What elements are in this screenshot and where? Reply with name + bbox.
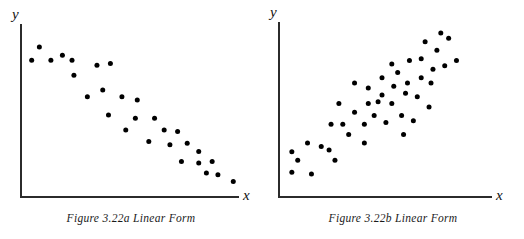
data-point (119, 94, 124, 99)
data-point (185, 141, 190, 146)
data-point (434, 48, 439, 53)
data-point (395, 70, 400, 75)
data-point (175, 129, 180, 134)
data-point (383, 120, 388, 125)
data-point (427, 105, 432, 110)
data-point (204, 171, 209, 176)
data-point (389, 101, 394, 106)
data-point (295, 158, 300, 163)
data-point (442, 63, 447, 68)
data-points-group-a (29, 44, 236, 183)
y-axis-label-a: y (12, 7, 19, 22)
data-point (309, 172, 314, 177)
data-point (366, 86, 371, 91)
data-point (37, 44, 42, 49)
data-point (327, 148, 332, 153)
data-point (346, 132, 351, 137)
data-point (380, 92, 385, 97)
data-point (419, 56, 424, 61)
data-point (60, 53, 65, 58)
data-point (411, 118, 416, 123)
data-point (429, 80, 434, 85)
data-point (289, 170, 294, 175)
figure-caption-b: Figure 3.22b Linear Form (262, 212, 524, 224)
data-point (366, 101, 371, 106)
data-point (405, 80, 410, 85)
data-point (380, 75, 385, 80)
data-point (100, 88, 105, 93)
data-point (210, 159, 215, 164)
data-point (85, 94, 90, 99)
data-point (376, 99, 381, 104)
scatter-plot-a-canvas (0, 0, 262, 208)
figure-panel-a: y x Figure 3.22a Linear Form (0, 0, 262, 239)
data-point (94, 63, 99, 68)
data-point (123, 127, 128, 132)
axes-b (278, 22, 492, 198)
data-point (215, 172, 220, 177)
y-axis-label-b: y (270, 5, 277, 20)
data-point (352, 110, 357, 115)
data-point (389, 62, 394, 67)
data-point (71, 73, 76, 78)
data-point (430, 67, 435, 72)
data-point (419, 75, 424, 80)
data-point (29, 58, 34, 63)
data-point (167, 142, 172, 147)
data-point (336, 101, 341, 106)
scatter-plot-a: y x (0, 0, 262, 208)
data-point (133, 116, 138, 121)
data-point (362, 122, 367, 127)
data-point (372, 113, 377, 118)
data-point (423, 39, 428, 44)
data-point (319, 144, 324, 149)
data-points-group-b (289, 31, 459, 177)
data-point (108, 61, 113, 66)
data-point (454, 58, 459, 63)
data-point (407, 58, 412, 63)
data-point (415, 94, 420, 99)
data-point (152, 116, 157, 121)
data-point (231, 179, 236, 184)
data-point (391, 84, 396, 89)
data-point (179, 159, 184, 164)
data-point (403, 91, 408, 96)
data-point (196, 149, 201, 154)
figure-panel-b: y x Figure 3.22b Linear Form (262, 0, 524, 239)
data-point (401, 132, 406, 137)
data-point (48, 58, 53, 63)
figure-pair-linear-forms: y x Figure 3.22a Linear Form y x Figure … (0, 0, 524, 239)
data-point (135, 98, 140, 103)
data-point (362, 141, 367, 146)
data-point (352, 80, 357, 85)
figure-caption-a: Figure 3.22a Linear Form (0, 212, 262, 224)
data-point (146, 139, 151, 144)
x-axis-label-a: x (243, 188, 250, 203)
data-point (196, 161, 201, 166)
data-point (70, 58, 75, 63)
data-point (340, 122, 345, 127)
data-point (106, 112, 111, 117)
data-point (399, 113, 404, 118)
data-point (446, 36, 451, 41)
data-point (289, 149, 294, 154)
data-point (438, 31, 443, 36)
x-axis-label-b: x (496, 188, 503, 203)
data-point (332, 158, 337, 163)
scatter-plot-b-canvas (262, 0, 524, 208)
data-point (329, 122, 334, 127)
scatter-plot-b: y x (262, 0, 524, 208)
data-point (162, 127, 167, 132)
data-point (305, 141, 310, 146)
